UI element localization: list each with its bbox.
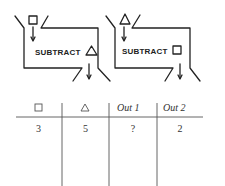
table-header-triangle-icon (81, 104, 89, 111)
table-cell: ? (131, 123, 136, 134)
io-table: Out 1 Out 2 3 5 ? 2 (16, 102, 203, 186)
machine-2-input-triangle-icon (120, 14, 130, 24)
machine-1: SUBTRACT (15, 16, 110, 81)
table-cell: 2 (178, 123, 183, 134)
diagram-canvas: SUBTRACT SUBTRACT Out 1 Out 2 3 (0, 0, 225, 186)
table-cell: 5 (83, 123, 88, 134)
table-header-square-icon (35, 104, 42, 111)
table-header-out1: Out 1 (117, 102, 140, 113)
machine-2-operand-square-icon (173, 46, 181, 54)
machine-1-input-arrow-icon (31, 27, 35, 41)
machine-1-operation-label: SUBTRACT (35, 48, 81, 57)
machine-2: SUBTRACT (106, 14, 200, 81)
machine-1-output-arrow-icon (87, 64, 91, 79)
machine-1-operand-triangle-icon (86, 46, 97, 55)
table-cell: 3 (36, 123, 41, 134)
machine-2-output-arrow-icon (178, 64, 182, 79)
table-header-out2: Out 2 (163, 102, 186, 113)
machine-2-input-arrow-icon (122, 27, 126, 41)
machine-2-operation-label: SUBTRACT (122, 47, 168, 56)
machine-1-input-square-icon (29, 16, 37, 24)
